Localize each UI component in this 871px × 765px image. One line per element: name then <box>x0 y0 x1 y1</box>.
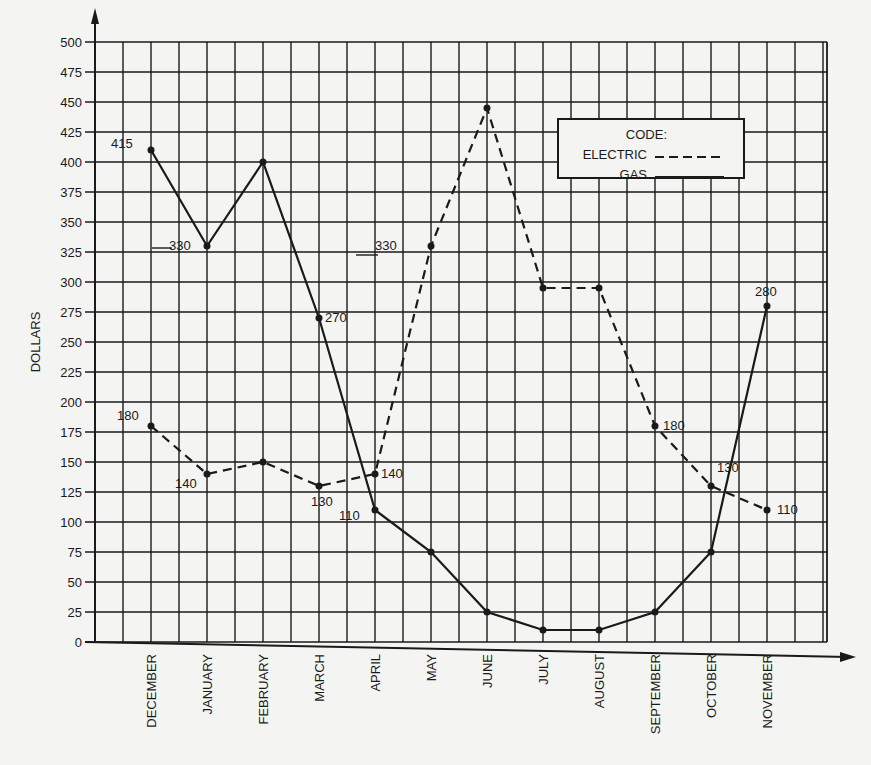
electric-data-point <box>428 243 435 250</box>
x-tick-label: MARCH <box>312 654 327 702</box>
x-tick-label: NOVEMBER <box>760 654 775 728</box>
axes <box>85 8 856 662</box>
y-tick-label: 175 <box>60 425 82 440</box>
y-axis-arrow-icon <box>91 8 99 24</box>
x-tick-label: FEBRUARY <box>256 654 271 725</box>
y-tick-label: 25 <box>68 605 82 620</box>
y-tick-label: 0 <box>75 635 82 650</box>
y-tick-label: 275 <box>60 305 82 320</box>
y-tick-label: 100 <box>60 515 82 530</box>
electric-data-label: 140 <box>175 476 197 491</box>
legend: CODE: ELECTRIC GAS <box>558 119 744 182</box>
x-tick-label: JANUARY <box>200 654 215 715</box>
electric-data-label: 130 <box>717 460 739 475</box>
gas-data-label: 330 <box>169 238 191 253</box>
gas-data-point <box>428 549 435 556</box>
y-tick-label: 475 <box>60 65 82 80</box>
gas-data-label: 415 <box>111 136 133 151</box>
electric-data-point <box>316 483 323 490</box>
electric-data-point <box>148 423 155 430</box>
gas-data-point <box>484 609 491 616</box>
y-tick-label: 225 <box>60 365 82 380</box>
electric-data-point <box>596 285 603 292</box>
x-tick-label: APRIL <box>368 654 383 692</box>
x-tick-label: SEPTEMBER <box>648 654 663 734</box>
x-axis-arrow-icon <box>840 652 856 662</box>
x-tick-label: JUNE <box>480 654 495 688</box>
legend-electric-label: ELECTRIC <box>583 147 647 162</box>
y-tick-label: 500 <box>60 35 82 50</box>
electric-data-point <box>540 285 547 292</box>
gas-data-point <box>148 147 155 154</box>
y-tick-label: 300 <box>60 275 82 290</box>
gas-data-point <box>540 627 547 634</box>
y-tick-label: 200 <box>60 395 82 410</box>
y-tick-label: 350 <box>60 215 82 230</box>
gas-data-point <box>204 243 211 250</box>
gas-data-point <box>764 303 771 310</box>
electric-data-point <box>484 105 491 112</box>
y-axis-label: DOLLARS <box>28 311 43 372</box>
gas-data-point <box>596 627 603 634</box>
electric-data-point <box>764 507 771 514</box>
y-tick-label: 75 <box>68 545 82 560</box>
gas-data-point <box>652 609 659 616</box>
gas-data-label: 110 <box>339 508 360 523</box>
electric-data-point <box>652 423 659 430</box>
y-tick-label: 450 <box>60 95 82 110</box>
y-tick-label: 375 <box>60 185 82 200</box>
line-chart: 0255075100125150175200225250275300325350… <box>0 0 871 765</box>
gas-data-label: 280 <box>755 284 777 299</box>
x-tick-label: JULY <box>536 654 551 685</box>
gas-data-point <box>372 507 379 514</box>
y-tick-label: 50 <box>68 575 82 590</box>
y-tick-label: 250 <box>60 335 82 350</box>
legend-title: CODE: <box>626 127 667 142</box>
y-tick-label: 150 <box>60 455 82 470</box>
electric-data-point <box>372 471 379 478</box>
electric-data-label: 330 <box>375 238 397 253</box>
gas-data-point <box>708 549 715 556</box>
y-tick-label: 125 <box>60 485 82 500</box>
electric-data-point <box>708 483 715 490</box>
gas-data-point <box>316 315 323 322</box>
y-axis-ticks: 0255075100125150175200225250275300325350… <box>60 35 82 650</box>
y-tick-label: 325 <box>60 245 82 260</box>
electric-data-label: 180 <box>663 418 685 433</box>
electric-data-point <box>204 471 211 478</box>
gas-data-label: 270 <box>325 310 347 325</box>
electric-data-label: 130 <box>311 494 333 509</box>
y-tick-label: 425 <box>60 125 82 140</box>
x-tick-label: DECEMBER <box>144 654 159 728</box>
x-tick-label: AUGUST <box>592 654 607 708</box>
legend-gas-label: GAS <box>620 167 648 182</box>
electric-data-label: 140 <box>381 466 403 481</box>
electric-data-label: 110 <box>777 502 798 517</box>
x-tick-label: MAY <box>424 654 439 682</box>
gas-data-point <box>260 159 267 166</box>
x-axis-month-labels: DECEMBERJANUARYFEBRUARYMARCHAPRILMAYJUNE… <box>144 654 775 735</box>
electric-data-label: 180 <box>117 408 139 423</box>
y-tick-label: 400 <box>60 155 82 170</box>
electric-data-point <box>260 459 267 466</box>
data-series: 180140130140330180130110415330270110280 <box>111 105 798 634</box>
x-tick-label: OCTOBER <box>704 654 719 718</box>
